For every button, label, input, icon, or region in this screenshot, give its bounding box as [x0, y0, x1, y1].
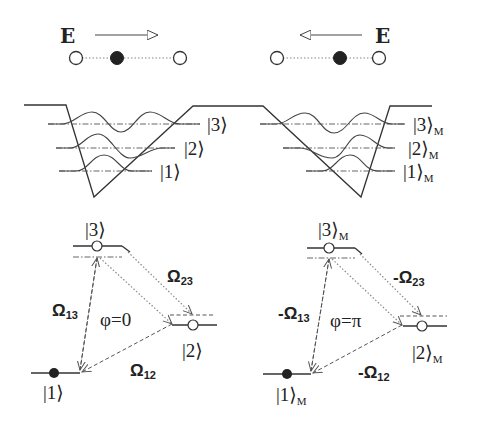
- left-omega23-label: Ω23: [167, 267, 193, 287]
- right-level-1-filled-state: [282, 369, 292, 379]
- right-atom-open-1: [271, 52, 284, 65]
- left-level-1-ket: |1⟩: [43, 382, 64, 403]
- right-transition-13-arrow: [311, 259, 329, 371]
- left-level-3-bend: [122, 246, 130, 252]
- right-level-scheme: |3⟩M |2⟩M |1⟩M -Ω13 -Ω23 -Ω12 φ=π: [263, 219, 447, 407]
- right-level-1-ket: |1⟩M: [276, 384, 307, 407]
- right-well-outline: [240, 106, 432, 197]
- right-level-2-ket: |2⟩M: [412, 342, 443, 365]
- left-wavefunction-3: [48, 112, 200, 132]
- left-atom-open-2: [174, 52, 187, 65]
- right-level-3-open-state: [324, 243, 334, 253]
- left-level-3-open-state: [92, 241, 102, 251]
- left-atom-filled: [111, 52, 124, 65]
- right-wavefunction-1: [306, 155, 395, 171]
- left-omega13-label: Ω13: [52, 301, 78, 321]
- left-phase-label: φ=0: [100, 309, 131, 330]
- right-level-2-open-state: [417, 321, 427, 331]
- left-molecule-group: E: [60, 24, 187, 65]
- left-level-3-ket: |3⟩: [85, 219, 106, 240]
- right-level-3-bend: [355, 248, 362, 254]
- right-molecule-group: E: [271, 24, 391, 65]
- right-level-3-ket: |3⟩M: [318, 219, 349, 242]
- left-omega12-label: Ω12: [130, 361, 156, 381]
- right-potential-well: |3⟩M |2⟩M |1⟩M: [240, 106, 444, 197]
- left-well-ket-2: |2⟩: [184, 138, 205, 159]
- right-wavefunction-2: [283, 135, 395, 158]
- right-atom-filled: [334, 52, 347, 65]
- right-efield-label: E: [375, 24, 390, 48]
- right-omega12-label: -Ω12: [358, 363, 390, 383]
- right-well-ket-3: |3⟩M: [413, 114, 444, 137]
- left-level-2-ket: |2⟩: [182, 340, 203, 361]
- left-atom-open-1: [70, 52, 83, 65]
- right-omega23-label: -Ω23: [393, 268, 425, 288]
- left-well-ket-3: |3⟩: [207, 114, 228, 135]
- left-transition-21-arrow: [82, 324, 172, 372]
- left-level-2-open-state: [188, 320, 198, 330]
- right-well-ket-2: |2⟩M: [408, 138, 439, 161]
- left-level-scheme: |3⟩ |2⟩ |1⟩ Ω13 Ω23 Ω12 φ=0: [31, 219, 217, 403]
- right-omega13-label: -Ω13: [278, 304, 310, 324]
- right-phase-label: φ=π: [330, 310, 362, 331]
- left-efield-label: E: [60, 24, 75, 48]
- right-transition-31-arrow: [311, 259, 329, 371]
- right-wavefunction-3: [260, 113, 405, 133]
- left-well-ket-1: |1⟩: [160, 161, 181, 182]
- right-atom-open-2: [373, 52, 386, 65]
- three-level-diagram: E E |3⟩ |2⟩ |1⟩ |3⟩M: [0, 0, 479, 424]
- left-wavefunction-1: [59, 155, 152, 171]
- left-potential-well: |3⟩ |2⟩ |1⟩: [24, 105, 240, 197]
- left-level-1-filled-state: [49, 368, 59, 378]
- left-wavefunction-2: [56, 134, 175, 158]
- right-well-ket-1: |1⟩M: [403, 161, 434, 184]
